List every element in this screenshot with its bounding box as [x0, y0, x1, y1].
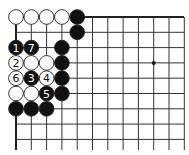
- white-stone: [24, 56, 39, 71]
- black-stone: [55, 86, 70, 101]
- move-number: 5: [43, 88, 50, 101]
- black-stone: [9, 101, 24, 116]
- black-stone: [70, 10, 85, 25]
- move-number: 1: [13, 42, 20, 55]
- black-stone: [55, 56, 70, 71]
- star-points: [152, 61, 156, 65]
- black-stone: [39, 101, 54, 116]
- go-board: 1726345: [0, 0, 189, 155]
- black-stone-move-7: 7: [24, 40, 39, 55]
- black-stone-move-3: 3: [24, 71, 39, 86]
- white-stone-move-4: 4: [39, 71, 54, 86]
- star-point: [152, 61, 156, 65]
- move-number: 7: [28, 42, 35, 55]
- black-stone: [55, 71, 70, 86]
- black-stone-move-5: 5: [39, 86, 54, 101]
- black-stone-move-1: 1: [9, 40, 24, 55]
- move-number: 6: [13, 72, 20, 85]
- white-stone: [24, 86, 39, 101]
- white-stone: [9, 86, 24, 101]
- white-stone-move-6: 6: [9, 71, 24, 86]
- move-number: 2: [13, 57, 20, 70]
- move-number: 3: [28, 72, 35, 85]
- white-stone: [39, 10, 54, 25]
- white-stone: [55, 10, 70, 25]
- black-stone: [24, 101, 39, 116]
- white-stone: [24, 10, 39, 25]
- black-stone: [55, 40, 70, 55]
- white-stone: [39, 56, 54, 71]
- white-stone-move-2: 2: [9, 56, 24, 71]
- white-stone: [9, 10, 24, 25]
- move-number: 4: [43, 72, 50, 85]
- black-stone: [70, 25, 85, 40]
